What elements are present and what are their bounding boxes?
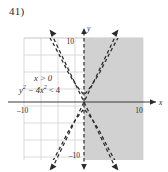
label-axis-x: x (158, 98, 163, 107)
inequality-x-positive: x > 0 (34, 73, 52, 83)
ineq2-mid: − 4x (26, 85, 44, 95)
ineq2-tail: < 4 (47, 85, 60, 95)
tick-y-bottom: –10 (68, 151, 81, 160)
tick-x-right: 10 (135, 106, 143, 115)
label-axis-y: y (86, 24, 91, 33)
inequality-hyperbola: y2 − 4x2 < 4 (19, 84, 60, 95)
shaded-solution-region (84, 38, 143, 160)
figure-container: 41) (0, 0, 168, 172)
tick-y-top: 10 (67, 37, 75, 46)
tick-x-left: –10 (16, 106, 29, 115)
